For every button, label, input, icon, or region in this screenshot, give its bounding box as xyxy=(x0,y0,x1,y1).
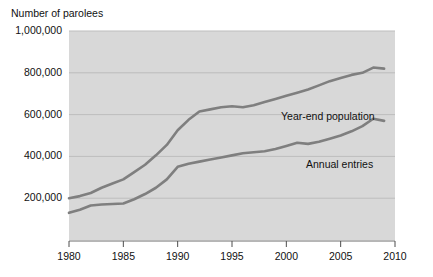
y-axis-tick-label: 1,000,000 xyxy=(15,25,62,36)
x-axis-ticks xyxy=(69,241,395,247)
x-axis-tick-label: 1980 xyxy=(39,251,99,262)
parolees-line-chart: Number of parolees 200,000400,000600,000… xyxy=(0,0,433,277)
x-axis-tick-label: 1990 xyxy=(148,251,208,262)
y-axis-tick-label: 200,000 xyxy=(24,192,62,203)
y-axis-tick-label: 800,000 xyxy=(24,67,62,78)
plot-background xyxy=(69,31,395,240)
x-axis-tick-label: 1985 xyxy=(93,251,153,262)
x-axis-tick-label: 2010 xyxy=(365,251,425,262)
series-label-year-end-population: Year-end population xyxy=(281,110,375,122)
x-axis-tick-label: 2005 xyxy=(311,251,371,262)
y-axis-tick-label: 600,000 xyxy=(24,109,62,120)
x-axis-tick-label: 2000 xyxy=(256,251,316,262)
series-label-annual-entries: Annual entries xyxy=(306,158,373,170)
y-axis-tick-label: 400,000 xyxy=(24,150,62,161)
x-axis-tick-label: 1995 xyxy=(202,251,262,262)
chart-plot-area xyxy=(0,0,433,277)
